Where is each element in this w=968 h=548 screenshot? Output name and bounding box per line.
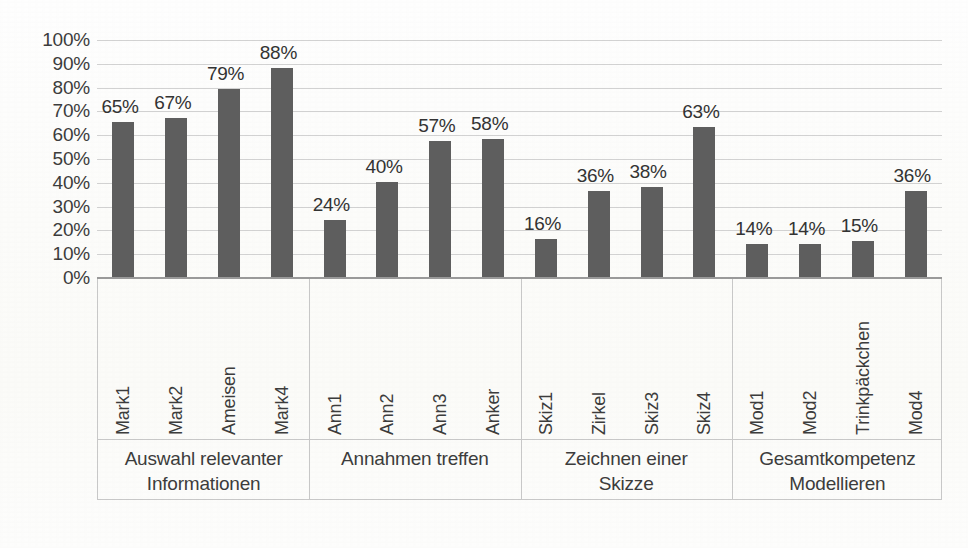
- bar: [218, 89, 240, 277]
- group-label: Annahmen treffen: [309, 446, 520, 471]
- group-label-line1: Auswahl relevanter: [98, 446, 309, 471]
- category-label: Ann3: [431, 394, 449, 435]
- category-label: Anker: [484, 389, 502, 435]
- bar: [905, 191, 927, 277]
- group-label: Zeichnen einerSkizze: [521, 446, 732, 496]
- bar-value-label: 79%: [207, 64, 244, 83]
- category-label: Mark4: [273, 386, 291, 435]
- bar-value-label: 57%: [418, 116, 455, 135]
- y-axis-tick-label: 50%: [10, 149, 90, 168]
- bar-value-label: 63%: [682, 102, 719, 121]
- group-label-box: Auswahl relevanterInformationenAnnahmen …: [97, 440, 942, 500]
- group-label: Auswahl relevanterInformationen: [98, 446, 309, 496]
- bar: [324, 220, 346, 277]
- bar: [693, 127, 715, 277]
- category-label: Ann2: [378, 394, 396, 435]
- group-separator: [521, 279, 522, 440]
- bar-value-label: 88%: [260, 43, 297, 62]
- bar-value-label: 58%: [471, 114, 508, 133]
- plot-area: 65%67%79%88%24%40%57%58%16%36%38%63%14%1…: [97, 40, 942, 278]
- category-label: Ameisen: [220, 366, 238, 435]
- group-label-line2: Modellieren: [732, 471, 943, 496]
- category-label: Zirkel: [590, 392, 608, 435]
- bar-value-label: 36%: [577, 166, 614, 185]
- y-axis-tick-label: 70%: [10, 101, 90, 120]
- category-label: Mark1: [114, 386, 132, 435]
- bar: [588, 191, 610, 277]
- y-axis-tick-label: 0%: [10, 268, 90, 287]
- y-axis-tick-label: 90%: [10, 54, 90, 73]
- bar-value-label: 36%: [894, 166, 931, 185]
- bar: [852, 241, 874, 277]
- group-label-line1: Gesamtkompetenz: [732, 446, 943, 471]
- category-label: Mark2: [167, 386, 185, 435]
- category-label: Mod2: [801, 391, 819, 435]
- category-label: Ann1: [326, 394, 344, 435]
- category-label-box: Mark1Mark2AmeisenMark4Ann1Ann2Ann3AnkerS…: [97, 279, 942, 440]
- gridline: [97, 40, 942, 41]
- y-axis-tick-label: 100%: [10, 30, 90, 49]
- category-label: Skiz3: [643, 392, 661, 435]
- y-axis-tick-label: 20%: [10, 220, 90, 239]
- bar-value-label: 15%: [841, 216, 878, 235]
- bar: [535, 239, 557, 277]
- bar-value-label: 14%: [735, 219, 772, 238]
- group-label-line1: Annahmen treffen: [309, 446, 520, 471]
- category-label: Skiz4: [695, 392, 713, 435]
- bar-value-label: 14%: [788, 219, 825, 238]
- bar: [799, 244, 821, 277]
- y-axis-tick-label: 80%: [10, 78, 90, 97]
- group-label-line2: Skizze: [521, 471, 732, 496]
- group-separator: [309, 279, 310, 440]
- y-axis-tick-label: 60%: [10, 125, 90, 144]
- category-label: Trinkpäckchen: [854, 321, 872, 435]
- group-label: GesamtkompetenzModellieren: [732, 446, 943, 496]
- category-label: Mod4: [907, 391, 925, 435]
- bar: [112, 122, 134, 277]
- y-axis-tick-label: 40%: [10, 173, 90, 192]
- category-label: Skiz1: [537, 392, 555, 435]
- bar-value-label: 65%: [101, 97, 138, 116]
- bar-value-label: 40%: [365, 157, 402, 176]
- bar: [376, 182, 398, 277]
- group-label-line2: Informationen: [98, 471, 309, 496]
- group-separator: [732, 279, 733, 440]
- bar: [271, 68, 293, 277]
- y-axis: 0%10%20%30%40%50%60%70%80%90%100%: [10, 30, 90, 278]
- bar: [641, 187, 663, 277]
- group-label-line1: Zeichnen einer: [521, 446, 732, 471]
- bar: [429, 141, 451, 277]
- category-label: Mod1: [748, 391, 766, 435]
- bar: [482, 139, 504, 277]
- bar: [746, 244, 768, 277]
- bar-value-label: 38%: [630, 162, 667, 181]
- y-axis-tick-label: 10%: [10, 244, 90, 263]
- y-axis-tick-label: 30%: [10, 197, 90, 216]
- bar-value-label: 16%: [524, 214, 561, 233]
- bar: [165, 118, 187, 277]
- bar-value-label: 67%: [154, 93, 191, 112]
- bar-value-label: 24%: [313, 195, 350, 214]
- bar-chart: 0%10%20%30%40%50%60%70%80%90%100% 65%67%…: [0, 0, 968, 548]
